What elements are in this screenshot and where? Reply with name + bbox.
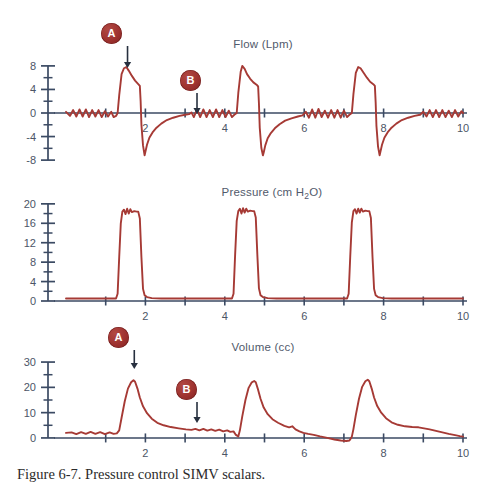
flow-y-tick-label: -4 xyxy=(26,131,36,143)
volume-x-tick-label: 10 xyxy=(457,447,469,459)
volume-y-tick-label: 30 xyxy=(24,356,36,368)
pressure-y-tick-label: 4 xyxy=(30,276,36,288)
pressure-waveform xyxy=(66,208,463,298)
pressure-x-tick-label: 4 xyxy=(222,310,228,322)
annotation-badge-b-volume[interactable]: B xyxy=(176,379,197,400)
arrow-a-volume-head xyxy=(131,363,138,369)
arrow-b-volume-head xyxy=(193,417,200,423)
flow-x-tick-label: 10 xyxy=(457,122,469,134)
pressure-x-tick-label: 10 xyxy=(457,310,469,322)
pressure-y-tick-label: 0 xyxy=(30,295,36,307)
flow-x-tick-label: 2 xyxy=(142,122,148,134)
volume-waveform xyxy=(66,380,463,441)
flow-chart-svg: 246810840-4-8 xyxy=(0,0,486,175)
pressure-y-tick-label: 8 xyxy=(30,256,36,268)
annotation-badge-a-volume[interactable]: A xyxy=(108,327,129,348)
chart-panel-pressure: 246810201612840 Pressure (cm H2O) xyxy=(0,175,486,325)
annotation-badge-b-flow[interactable]: B xyxy=(180,70,201,91)
volume-chart-svg: 2468103020100 xyxy=(0,325,486,460)
arrow-a-flow xyxy=(124,46,131,68)
pressure-y-tick-label: 12 xyxy=(24,237,36,249)
figure-caption: Figure 6-7. Pressure control SIMV scalar… xyxy=(17,466,265,483)
pressure-chart-svg: 246810201612840 xyxy=(0,175,486,325)
annotation-badge-a-flow[interactable]: A xyxy=(101,23,122,44)
arrow-a-volume xyxy=(131,350,138,369)
volume-x-tick-label: 6 xyxy=(301,447,307,459)
chart-panel-volume: 2468103020100 Volume (cc) A B xyxy=(0,325,486,460)
pressure-x-tick-label: 8 xyxy=(381,310,387,322)
chart-panel-flow: 246810840-4-8 Flow (Lpm) A B xyxy=(0,0,486,175)
flow-y-tick-label: 8 xyxy=(30,60,36,72)
flow-y-tick-label: -8 xyxy=(26,154,36,166)
volume-x-tick-label: 4 xyxy=(222,447,228,459)
flow-y-tick-label: 0 xyxy=(30,107,36,119)
flow-x-tick-label: 6 xyxy=(301,122,307,134)
volume-y-tick-label: 10 xyxy=(24,407,36,419)
flow-x-tick-label: 8 xyxy=(381,122,387,134)
figure-container: 246810840-4-8 Flow (Lpm) A B 24681020161… xyxy=(0,0,486,494)
volume-y-tick-label: 0 xyxy=(30,432,36,444)
flow-y-tick-label: 4 xyxy=(30,83,36,95)
pressure-x-tick-label: 2 xyxy=(142,310,148,322)
pressure-y-tick-label: 16 xyxy=(24,217,36,229)
pressure-y-tick-label: 20 xyxy=(24,198,36,210)
pressure-x-tick-label: 6 xyxy=(301,310,307,322)
volume-x-tick-label: 8 xyxy=(381,447,387,459)
arrow-b-volume xyxy=(193,402,200,423)
arrow-b-flow xyxy=(193,93,200,114)
flow-x-tick-label: 4 xyxy=(222,122,228,134)
volume-x-tick-label: 2 xyxy=(142,447,148,459)
volume-y-tick-label: 20 xyxy=(24,381,36,393)
